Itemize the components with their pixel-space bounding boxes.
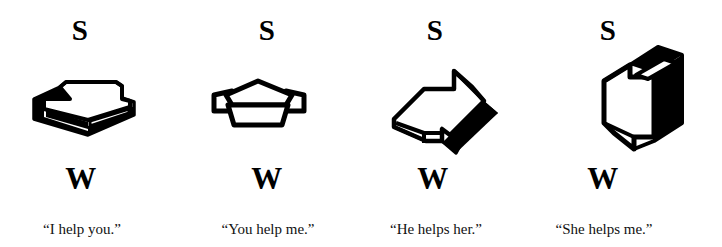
block-shape-flat-open-box	[30, 77, 150, 137]
block-shape-upright-arrow-box	[590, 37, 710, 157]
panel-1-caption: “I help you.”	[0, 221, 172, 238]
panel-2-bottom-label: W	[177, 163, 357, 194]
panel-2-shape-slot	[180, 55, 360, 155]
panel-2-caption: “You help me.”	[178, 221, 358, 238]
panel-3-caption: “He helps her.”	[346, 221, 526, 238]
panel-3-bottom-label: W	[343, 163, 523, 194]
figure-plate: S W “I help you.” S	[0, 0, 722, 247]
figure-panel-4: S W “She helps me.”	[542, 0, 722, 247]
panel-3-shape-slot	[360, 55, 540, 155]
panel-1-bottom-label: W	[0, 163, 171, 194]
figure-panel-1: S W “I help you.”	[0, 0, 180, 247]
panel-3-top-label: S	[345, 16, 525, 45]
panel-2-top-label: S	[177, 16, 357, 45]
block-shape-rotated-arrow-box	[380, 57, 510, 157]
block-shape-tilted-trapezoid-box	[208, 77, 328, 137]
figure-panel-3: S W “He helps her.”	[360, 0, 540, 247]
panel-1-top-label: S	[0, 16, 170, 45]
panel-1-shape-slot	[0, 55, 180, 155]
figure-panel-2: S W “You help me.”	[180, 0, 360, 247]
panel-4-shape-slot	[542, 55, 722, 155]
panel-4-caption: “She helps me.”	[514, 221, 694, 238]
panel-4-bottom-label: W	[513, 163, 693, 194]
